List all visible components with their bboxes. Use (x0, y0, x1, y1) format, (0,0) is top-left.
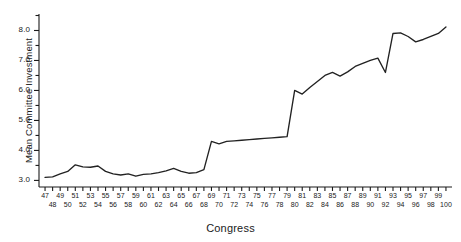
data-series-line (45, 27, 446, 178)
x-tick-label: 85 (324, 192, 340, 199)
y-tick-label: 8.0 (8, 25, 30, 34)
x-tick-label: 93 (385, 192, 401, 199)
x-tick-label: 53 (82, 192, 98, 199)
x-tick-label: 100 (438, 201, 454, 208)
x-tick-label: 50 (60, 201, 76, 208)
x-tick-label: 73 (234, 192, 250, 199)
x-tick-label: 98 (423, 201, 439, 208)
x-axis-ticks (45, 187, 446, 191)
x-tick-label: 76 (256, 201, 272, 208)
x-tick-label: 81 (294, 192, 310, 199)
x-tick-label: 96 (408, 201, 424, 208)
x-tick-label: 70 (211, 201, 227, 208)
x-tick-label: 48 (45, 201, 61, 208)
x-tick-label: 51 (67, 192, 83, 199)
x-tick-label: 79 (279, 192, 295, 199)
x-tick-label: 60 (135, 201, 151, 208)
x-axis-title: Congress (0, 222, 461, 234)
x-tick-label: 49 (52, 192, 68, 199)
x-tick-label: 56 (105, 201, 121, 208)
x-tick-label: 66 (181, 201, 197, 208)
axes (34, 14, 452, 191)
x-tick-label: 80 (287, 201, 303, 208)
x-tick-label: 54 (90, 201, 106, 208)
x-tick-label: 57 (113, 192, 129, 199)
x-tick-label: 52 (75, 201, 91, 208)
x-tick-label: 58 (120, 201, 136, 208)
x-tick-label: 84 (317, 201, 333, 208)
x-tick-label: 72 (226, 201, 242, 208)
y-tick-label: 6.0 (8, 85, 30, 94)
x-tick-label: 77 (264, 192, 280, 199)
x-tick-label: 64 (166, 201, 182, 208)
x-tick-label: 92 (377, 201, 393, 208)
y-tick-label: 7.0 (8, 55, 30, 64)
y-axis-title: Mean Committee Investment (23, 11, 34, 191)
x-tick-label: 89 (355, 192, 371, 199)
x-tick-label: 55 (98, 192, 114, 199)
x-tick-label: 75 (249, 192, 265, 199)
x-tick-label: 62 (151, 201, 167, 208)
x-tick-label: 95 (400, 192, 416, 199)
y-axis-ticks (34, 15, 39, 180)
x-tick-label: 78 (272, 201, 288, 208)
x-tick-label: 47 (37, 192, 53, 199)
y-tick-label: 3.0 (8, 175, 30, 184)
x-tick-label: 83 (309, 192, 325, 199)
x-tick-label: 68 (196, 201, 212, 208)
x-tick-label: 91 (370, 192, 386, 199)
x-tick-label: 61 (143, 192, 159, 199)
x-tick-label: 99 (430, 192, 446, 199)
x-tick-label: 94 (393, 201, 409, 208)
x-tick-label: 67 (188, 192, 204, 199)
x-tick-label: 90 (362, 201, 378, 208)
x-tick-label: 86 (332, 201, 348, 208)
x-tick-label: 88 (347, 201, 363, 208)
x-tick-label: 59 (128, 192, 144, 199)
y-tick-label: 5.0 (8, 115, 30, 124)
x-tick-label: 87 (340, 192, 356, 199)
x-tick-label: 82 (302, 201, 318, 208)
x-tick-label: 74 (241, 201, 257, 208)
x-tick-label: 97 (415, 192, 431, 199)
chart-figure: Mean Committee Investment Congress 3.04.… (0, 0, 461, 242)
x-tick-label: 69 (203, 192, 219, 199)
x-tick-label: 71 (219, 192, 235, 199)
x-tick-label: 63 (158, 192, 174, 199)
x-tick-label: 65 (173, 192, 189, 199)
y-tick-label: 4.0 (8, 145, 30, 154)
